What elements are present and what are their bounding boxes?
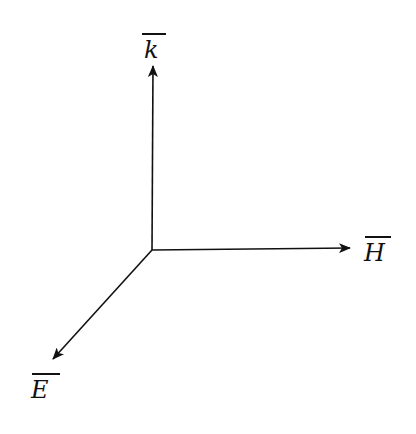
e-label: E [31, 378, 49, 402]
k-overline [142, 33, 166, 35]
h-axis-arrow [152, 248, 350, 250]
axes-diagram [0, 0, 416, 434]
h-label: H [364, 241, 385, 265]
e-overline [32, 373, 60, 375]
k-label: k [144, 38, 159, 62]
h-overline [365, 236, 391, 238]
e-axis-arrow [53, 250, 152, 359]
k-axis-arrow [152, 66, 153, 250]
